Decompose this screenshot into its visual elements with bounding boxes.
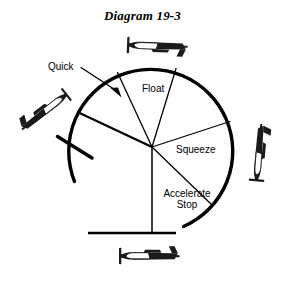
label-quick: Quick bbox=[48, 61, 74, 72]
aircraft-top bbox=[127, 37, 188, 57]
label-squeeze: Squeeze bbox=[176, 144, 215, 155]
aircraft-top-canopy bbox=[134, 42, 158, 49]
aircraft-bottom-tailfin bbox=[169, 246, 178, 253]
aircraft-top-wing bbox=[151, 49, 169, 52]
aircraft-right-spinner bbox=[255, 177, 259, 180]
aircraft-top-spinner bbox=[128, 43, 131, 47]
diagram-canvas bbox=[0, 0, 285, 281]
aircraft-bottom-wing bbox=[143, 250, 161, 253]
aircraft-right bbox=[249, 123, 272, 182]
spoke-entry-boundary bbox=[79, 113, 153, 148]
aircraft-right-tailfin bbox=[263, 126, 272, 136]
label-accelerate-stop: Accelerate Stop bbox=[158, 188, 216, 210]
diagram-figure: Diagram 19-3 bbox=[0, 0, 285, 281]
aircraft-bottom bbox=[119, 246, 180, 264]
label-float: Float bbox=[142, 83, 164, 94]
aircraft-bottom-spinner bbox=[120, 254, 123, 258]
aircraft-bottom-tailplane bbox=[168, 255, 179, 257]
aircraft-top-tailfin bbox=[177, 49, 186, 57]
spoke-float-squeeze bbox=[152, 69, 176, 148]
aircraft-bottom-canopy bbox=[126, 253, 150, 259]
quick-callout-group bbox=[81, 68, 122, 98]
label-accelerate: Accelerate bbox=[163, 188, 210, 199]
loop-entry-tangent bbox=[58, 137, 93, 159]
aircraft-left bbox=[16, 86, 72, 136]
quick-arrowhead bbox=[111, 88, 122, 98]
label-stop: Stop bbox=[158, 199, 216, 210]
aircraft-top-tailplane bbox=[176, 45, 188, 47]
